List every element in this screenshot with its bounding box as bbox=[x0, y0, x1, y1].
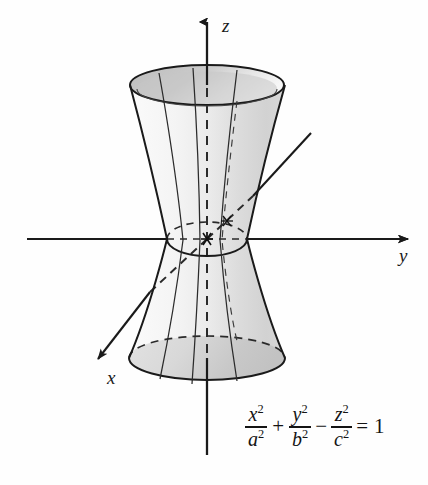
term-1-numerator-exponent: 2 bbox=[257, 402, 263, 416]
equation-term-1: x2 a2 bbox=[245, 404, 267, 450]
term-2-denominator: b2 bbox=[289, 428, 311, 450]
term-1-denominator: a2 bbox=[245, 428, 267, 450]
term-2-denominator-exponent: 2 bbox=[302, 427, 308, 441]
z-axis-label: z bbox=[221, 15, 230, 36]
equation-operator-1: + bbox=[272, 414, 284, 439]
term-3-numerator: z2 bbox=[332, 404, 352, 426]
term-1-denominator-exponent: 2 bbox=[258, 427, 264, 441]
term-2-numerator-exponent: 2 bbox=[301, 402, 307, 416]
hyperboloid-figure: z y x x2 a2 + y2 b2 − z2 c2 = 1 bbox=[0, 0, 428, 485]
x-axis-label: x bbox=[106, 367, 116, 388]
equation-term-2: y2 b2 bbox=[289, 404, 311, 450]
term-3-numerator-exponent: 2 bbox=[342, 402, 348, 416]
term-2-numerator: y2 bbox=[290, 404, 311, 426]
y-axis-label: y bbox=[397, 245, 408, 266]
surface-equation: x2 a2 + y2 b2 − z2 c2 = 1 bbox=[244, 404, 385, 450]
term-3-denominator: c2 bbox=[331, 428, 352, 450]
equation-term-3: z2 c2 bbox=[331, 404, 352, 450]
equation-right-hand-side: 1 bbox=[374, 414, 385, 439]
equation-operator-2: − bbox=[315, 414, 327, 439]
term-3-denominator-exponent: 2 bbox=[343, 427, 349, 441]
equation-equals-sign: = bbox=[356, 414, 368, 439]
term-1-numerator: x2 bbox=[246, 404, 267, 426]
